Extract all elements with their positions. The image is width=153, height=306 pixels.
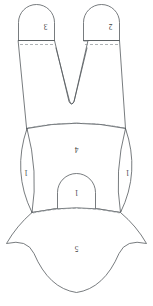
piece-label-top-right-lobe: 2 bbox=[108, 22, 112, 31]
piece-label-center-dome: 1 bbox=[74, 188, 78, 197]
piece-label-top-left-lobe: 3 bbox=[43, 22, 47, 31]
piece-label-body-panel: 4 bbox=[74, 145, 78, 154]
top-left-lobe-shape bbox=[19, 5, 55, 41]
pattern-diagram: 3 2 4 1 1 1 5 bbox=[0, 0, 153, 306]
top-right-lobe-shape bbox=[84, 5, 120, 41]
piece-label-right-side-lens: 1 bbox=[125, 168, 129, 177]
pattern-drawing-canvas: 3 2 4 1 1 1 5 bbox=[0, 0, 153, 306]
piece-label-bottom-panel: 5 bbox=[74, 244, 78, 253]
piece-label-left-side-lens: 1 bbox=[24, 168, 28, 177]
left-leg-shape bbox=[19, 41, 126, 129]
